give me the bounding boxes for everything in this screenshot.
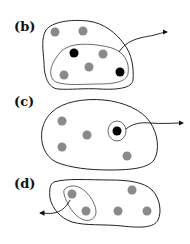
outer-region-c <box>42 100 158 171</box>
gray-dot <box>82 207 91 216</box>
gray-dot <box>114 207 123 216</box>
gray-dot <box>123 152 132 161</box>
gray-dot <box>68 190 77 199</box>
gray-dot <box>79 27 88 36</box>
arrow-d <box>40 200 70 213</box>
panel-c: (c) <box>14 94 183 170</box>
panel-d: (d) <box>14 176 160 227</box>
cluster-diagram: (b) (c) (d) <box>0 0 190 244</box>
panel-b: (b) <box>14 19 167 89</box>
panel-label-c: (c) <box>14 94 34 109</box>
gray-dot <box>60 71 69 80</box>
gray-dot <box>85 63 94 72</box>
gray-dot <box>58 143 67 152</box>
black-dot <box>113 127 122 136</box>
gray-dot <box>128 186 137 195</box>
panel-label-d: (d) <box>14 176 35 191</box>
gray-dot <box>99 50 108 59</box>
arrow-c <box>126 123 183 129</box>
gray-dot <box>143 207 152 216</box>
black-dot <box>70 49 79 58</box>
gray-dot <box>58 117 67 126</box>
outer-region-d <box>50 180 160 228</box>
black-dot <box>116 68 125 77</box>
gray-dot <box>51 28 60 37</box>
arrow-b <box>119 32 167 52</box>
panel-label-b: (b) <box>14 19 35 34</box>
gray-dot <box>83 131 92 140</box>
